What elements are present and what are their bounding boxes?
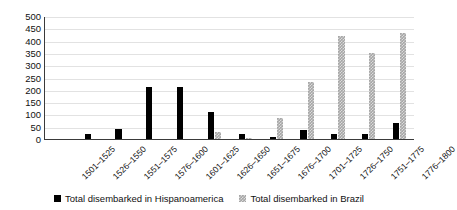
bar <box>246 138 252 139</box>
bar <box>146 87 152 139</box>
bar <box>208 112 214 139</box>
y-axis-tick-label: 50 <box>1 123 41 133</box>
bar <box>300 130 306 139</box>
gray-square-icon <box>239 195 246 202</box>
gridline <box>45 103 414 104</box>
bar <box>270 137 276 139</box>
y-axis-tick-labels: 500450400350300250200150100500 <box>0 0 41 210</box>
y-axis-tick-label: 300 <box>1 61 41 71</box>
y-axis-tick-label: 200 <box>1 86 41 96</box>
bar <box>400 33 406 139</box>
gridline <box>45 128 414 129</box>
y-axis-tick-label: 450 <box>1 24 41 34</box>
gridline <box>45 42 414 43</box>
y-axis-tick-label: 0 <box>1 135 41 145</box>
bar <box>338 36 344 139</box>
gridline <box>45 79 414 80</box>
bar <box>239 134 245 139</box>
y-axis-tick-label: 350 <box>1 49 41 59</box>
bar <box>331 134 337 139</box>
gridline <box>45 54 414 55</box>
legend-label: Total disembarked in Hispanoamerica <box>65 193 223 204</box>
legend-item[interactable]: Total disembarked in Brazil <box>239 193 364 204</box>
y-axis-tick-label: 100 <box>1 110 41 120</box>
gridline <box>45 115 414 116</box>
bar <box>277 118 283 139</box>
legend-item[interactable]: Total disembarked in Hispanoamerica <box>54 193 223 204</box>
bar <box>362 134 368 139</box>
gridline <box>45 66 414 67</box>
legend-label: Total disembarked in Brazil <box>250 193 364 204</box>
bar <box>115 129 121 139</box>
chart-legend: Total disembarked in HispanoamericaTotal… <box>0 190 418 206</box>
gridline <box>45 29 414 30</box>
x-axis-tick-labels: 1501–15251526–15501551–15751576–16001601… <box>44 140 414 188</box>
bar <box>308 82 314 139</box>
bar <box>215 132 221 139</box>
bar <box>393 123 399 139</box>
y-axis-tick-label: 500 <box>1 12 41 22</box>
y-axis-tick-label: 250 <box>1 74 41 84</box>
y-axis-tick-label: 400 <box>1 37 41 47</box>
y-axis-tick-label: 150 <box>1 98 41 108</box>
black-square-icon <box>54 195 61 202</box>
bar <box>177 87 183 139</box>
bar <box>85 134 91 139</box>
plot-area <box>44 17 414 140</box>
bar <box>369 53 375 139</box>
gridline <box>45 17 414 18</box>
gridline <box>45 91 414 92</box>
